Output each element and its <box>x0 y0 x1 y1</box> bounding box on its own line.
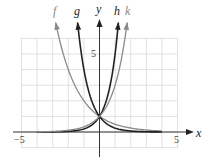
y-axis-label: y <box>96 3 101 15</box>
curve-label-f: f <box>53 5 56 17</box>
curve-label-h: h <box>114 5 120 17</box>
curve-label-g: g <box>74 5 80 17</box>
x-axis-arrow-icon <box>186 129 194 135</box>
curve-g <box>78 23 162 132</box>
curve-h <box>37 23 118 132</box>
x-tick-min: −5 <box>14 135 25 145</box>
curve-label-k: k <box>125 5 130 17</box>
x-tick-max: 5 <box>174 135 179 145</box>
x-axis-label: x <box>196 127 201 139</box>
axes <box>13 19 194 157</box>
curve-k <box>37 23 127 132</box>
exponential-graph <box>0 0 211 165</box>
y-axis-arrow-icon <box>97 19 103 27</box>
y-tick-5: 5 <box>91 49 96 59</box>
curve-k-arrow-icon <box>123 22 129 30</box>
